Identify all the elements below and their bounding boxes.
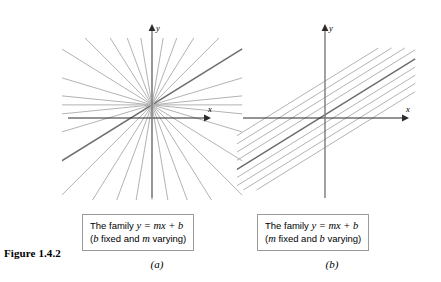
family-line: [237, 75, 415, 187]
figure-number-label: Figure 1.4.2: [4, 247, 61, 259]
sub-label-b: (b): [237, 258, 427, 270]
figure-container: Figure 1.4.2 x y The family y = mx + b (…: [0, 0, 441, 282]
plot-a-concurrent-lines: x y: [62, 18, 252, 208]
caption-b-mid: fixed and: [276, 233, 320, 244]
caption-a-end: varying): [150, 233, 186, 244]
caption-a-prefix: The family: [90, 220, 136, 231]
plot-b-line-group: [237, 48, 415, 190]
caption-line-2-b: (m fixed and b varying): [265, 232, 361, 245]
family-line: [85, 38, 242, 195]
x-axis-arrow-a: [204, 115, 211, 122]
caption-box-b: The family y = mx + b (m fixed and b var…: [257, 214, 369, 251]
x-axis-arrow-b: [402, 115, 409, 122]
caption-line-1-b: The family y = mx + b: [265, 219, 361, 232]
y-axis-label-b: y: [328, 23, 333, 33]
family-line: [237, 50, 415, 162]
caption-b-equation: y = mx + b: [311, 220, 358, 231]
panel-a: x y The family y = mx + b (b fixed and m…: [62, 18, 252, 268]
family-line: [243, 83, 415, 190]
y-axis-arrow-b: [322, 24, 329, 31]
x-axis-label-b: x: [405, 104, 410, 114]
caption-box-a: The family y = mx + b (b fixed and m var…: [82, 214, 194, 251]
caption-a-equation: y = mx + b: [136, 220, 183, 231]
y-axis-arrow-a: [149, 24, 156, 31]
caption-line-2-a: (b fixed and m varying): [90, 232, 186, 245]
sub-label-a: (a): [62, 258, 252, 270]
family-line: [136, 38, 163, 200]
caption-b-var1: m: [268, 233, 276, 244]
family-line: [237, 48, 405, 153]
x-axis-label-a: x: [207, 104, 212, 114]
family-line: [237, 67, 415, 179]
y-axis-label-a: y: [155, 23, 160, 33]
family-line: [141, 38, 168, 200]
caption-a-mid: fixed and: [98, 233, 142, 244]
caption-a-var2: m: [142, 233, 150, 244]
family-line: [237, 48, 392, 145]
family-line: [256, 92, 415, 190]
family-line: [237, 59, 415, 171]
caption-line-1-a: The family y = mx + b: [90, 219, 186, 232]
family-line: [237, 48, 378, 137]
plot-b-parallel-lines: x y: [237, 18, 427, 208]
panel-b: x y The family y = mx + b (m fixed and b…: [237, 18, 427, 268]
caption-b-end: varying): [325, 233, 361, 244]
caption-b-prefix: The family: [265, 220, 311, 231]
